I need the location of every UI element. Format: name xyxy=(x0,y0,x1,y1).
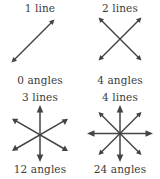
panel-2-diagram xyxy=(80,13,160,76)
panel-1-diagram xyxy=(0,13,80,76)
panel-3-lines: 3 lines 12 angles xyxy=(0,89,80,178)
panel-1-angles-label: 0 angles xyxy=(0,74,80,86)
panel-1-line: 1 line 0 angles xyxy=(0,0,80,89)
panel-3-angles-label: 12 angles xyxy=(0,163,80,175)
panel-4-angles-label: 24 angles xyxy=(80,163,160,175)
panel-3-diagram xyxy=(0,102,80,165)
panel-2-lines: 2 lines 4 angles xyxy=(80,0,160,89)
panel-4-lines: 4 lines xyxy=(80,89,160,178)
panel-2-angles-label: 4 angles xyxy=(80,74,160,86)
lines-and-angles-figure: 1 line 0 angles 2 lines xyxy=(0,0,160,179)
line-45deg xyxy=(12,20,55,63)
panel-4-diagram xyxy=(80,102,160,165)
